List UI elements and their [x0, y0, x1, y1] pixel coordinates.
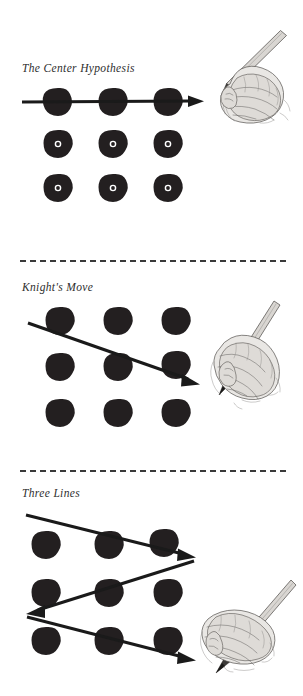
dot-r3c2: [104, 399, 133, 427]
dot-grid-svg: [30, 305, 215, 435]
dot-r1c3: [162, 307, 191, 335]
page-canvas: The Center Hypothesis: [0, 0, 303, 696]
section-divider-1: [20, 260, 286, 262]
dot-row-1: [46, 307, 191, 335]
dot-r3c3: [162, 399, 191, 427]
dot-center-pip-r3c3: [166, 186, 170, 190]
dot-row-2: [32, 579, 183, 607]
section-center-hypothesis: The Center Hypothesis: [0, 0, 303, 248]
hand-sketch: [221, 66, 291, 123]
section-title-knights-move: Knight's Move: [22, 281, 93, 293]
section-divider-2: [20, 470, 286, 472]
dot-center-pip-r2c3: [166, 142, 170, 146]
section-knights-move: Knight's Move: [0, 248, 303, 467]
dot-r1c2: [104, 307, 133, 335]
dot-center-pip-r3c1: [56, 186, 60, 190]
puzzle-grid-center-hypothesis: [22, 86, 207, 206]
section-three-lines: Three Lines: [0, 467, 303, 696]
puzzle-grid-knights-move: [30, 305, 215, 435]
dot-r3c1: [32, 627, 61, 655]
dot-r1c1: [32, 531, 61, 559]
hand-illustration-center-hypothesis: [200, 28, 300, 133]
section-title-three-lines: Three Lines: [22, 487, 80, 499]
dot-r3c1: [46, 399, 75, 427]
dot-grid-svg: [22, 86, 207, 206]
dot-center-pip-r2c2: [111, 142, 115, 146]
dot-row-3: [44, 174, 183, 202]
hand-illustration-knights-move: [198, 300, 300, 420]
dot-row-3: [46, 399, 191, 427]
dot-row-2: [44, 130, 183, 158]
dot-center-pip-r2c1: [56, 142, 60, 146]
dot-center-pip-r3c2: [111, 186, 115, 190]
dot-r2c3: [154, 579, 183, 607]
hand-illustration-three-lines: [196, 577, 300, 689]
section-title-center-hypothesis: The Center Hypothesis: [22, 62, 135, 74]
dot-r2c1: [46, 353, 75, 381]
hand-sketch: [211, 335, 280, 409]
